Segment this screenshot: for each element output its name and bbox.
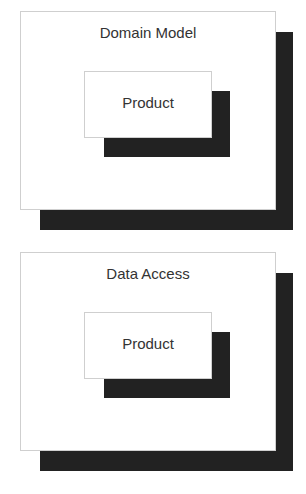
layer-title: Domain Model xyxy=(21,24,275,42)
inner-box-product: Product xyxy=(84,312,212,379)
layer-title: Data Access xyxy=(21,265,275,283)
entity-label: Product xyxy=(85,335,211,353)
inner-box-product: Product xyxy=(84,71,212,138)
layer-data-access: Data Access Product xyxy=(0,241,306,485)
entity-label: Product xyxy=(85,94,211,112)
layer-domain-model: Domain Model Product xyxy=(0,0,306,244)
